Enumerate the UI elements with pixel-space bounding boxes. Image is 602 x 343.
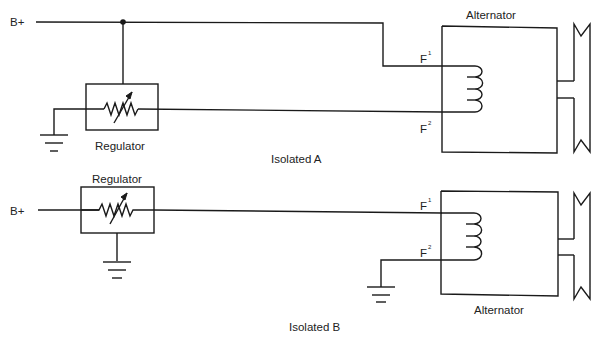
- b-plus-label-b: B+: [10, 205, 25, 217]
- b-plus-wire-a: [36, 22, 442, 66]
- f1-label-b: F: [420, 200, 427, 212]
- f2-superscript-b: 2: [428, 244, 432, 250]
- ground-wire-a: [54, 109, 104, 135]
- circuit-isolated-b: Regulator B+ F 1 F 2: [10, 173, 590, 333]
- f2-label-a: F: [420, 123, 427, 135]
- alternator-box-a: [442, 26, 557, 153]
- variable-resistor-icon: [104, 92, 138, 123]
- alternator-box-b: [441, 191, 558, 296]
- f1-superscript-a: 1: [428, 50, 432, 56]
- caption-isolated-b: Isolated B: [289, 321, 340, 333]
- b-plus-label-a: B+: [10, 16, 25, 28]
- ground-icon: [367, 287, 395, 302]
- f2-label-b: F: [420, 247, 427, 259]
- f1-label-a: F: [420, 53, 427, 65]
- variable-resistor-icon: [81, 193, 154, 224]
- circuit-isolated-a: B+ Regulator Alternator F 1 F 2: [10, 9, 590, 165]
- caption-isolated-a: Isolated A: [271, 153, 322, 165]
- f2-ground-wire-b: [381, 260, 441, 287]
- f1-superscript-b: 1: [428, 197, 432, 203]
- alternator-label-a: Alternator: [466, 9, 516, 21]
- ground-icon: [40, 135, 68, 151]
- f2-superscript-a: 2: [428, 120, 432, 126]
- regulator-label-b: Regulator: [92, 173, 142, 185]
- field-coil-icon: [441, 213, 482, 260]
- regulator-label-a: Regulator: [95, 140, 145, 152]
- pulley-icon: [574, 24, 590, 152]
- alternator-label-b: Alternator: [474, 304, 524, 316]
- field-wire-b: [154, 210, 442, 213]
- ground-icon: [103, 262, 131, 278]
- pulley-icon: [574, 193, 590, 299]
- field-wire-a: [138, 109, 442, 112]
- field-coil-icon: [442, 66, 483, 112]
- alternator-circuit-diagram: B+ Regulator Alternator F 1 F 2: [0, 0, 602, 343]
